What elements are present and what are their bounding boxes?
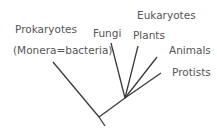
fungi-label: Fungi [93, 27, 121, 39]
monera-label: (Monera=bacteria) [13, 44, 112, 56]
animals-label: Animals [169, 44, 211, 56]
root-stem [99, 117, 105, 126]
eukaryote-stem [99, 98, 125, 117]
eukaryotes-label: Eukaryotes [137, 9, 196, 21]
protists-label: Protists [172, 66, 211, 78]
prokaryote-branch [53, 62, 99, 117]
fungi-branch [111, 43, 125, 98]
prokaryotes-label: Prokaryotes [15, 23, 77, 35]
plants-label: Plants [133, 29, 165, 41]
